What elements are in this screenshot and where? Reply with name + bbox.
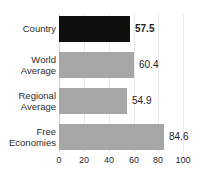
value-label-regional-average: 54.9 [132, 95, 151, 106]
value-label-world-average: 60.4 [139, 59, 158, 70]
category-label-country: Country [23, 23, 56, 34]
category-label-regional-average: Regional Average [19, 90, 57, 112]
plot-area: Country World Average Regional Average F… [0, 0, 203, 185]
bar-world-average [59, 52, 134, 78]
bar-free-economies [59, 124, 164, 150]
value-label-free-economies: 84.6 [169, 131, 188, 142]
xtick-40: 40 [97, 155, 121, 165]
xtick-60: 60 [122, 155, 146, 165]
bar-country [59, 16, 130, 42]
bar-regional-average [59, 88, 127, 114]
xtick-0: 0 [47, 155, 71, 165]
xtick-20: 20 [72, 155, 96, 165]
xtick-80: 80 [146, 155, 170, 165]
bar-chart: Country World Average Regional Average F… [0, 0, 203, 185]
category-label-world-average: World Average [21, 54, 56, 76]
xtick-100: 100 [171, 155, 195, 165]
category-label-free-economies: Free Economies [9, 126, 56, 148]
value-label-country: 57.5 [135, 23, 154, 34]
